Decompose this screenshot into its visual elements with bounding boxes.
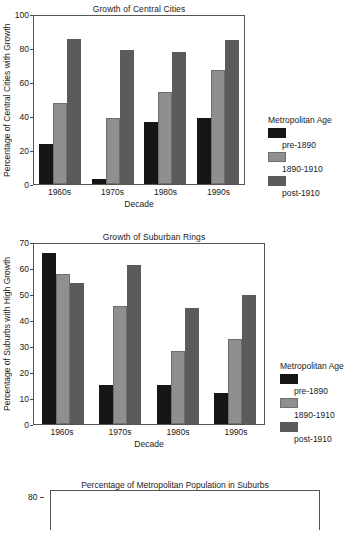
chart1-ytick-100: 100 <box>15 10 29 20</box>
chart2-bars <box>34 244 264 424</box>
bar-1970s-post-1910 <box>120 50 134 184</box>
chart1-title: Growth of Central Cities <box>0 0 364 15</box>
chart2-ytick-20: 20 <box>20 368 29 378</box>
xtick-1960s: 1960s <box>50 427 73 437</box>
bar-1970s-1890-1910 <box>113 306 127 424</box>
bar-1990s-pre-1890 <box>197 118 211 184</box>
xtick-1970s: 1970s <box>108 427 131 437</box>
xtick-1970s: 1970s <box>101 187 124 197</box>
bar-1970s-pre-1890 <box>99 385 113 424</box>
chart2-legend-label-1: 1890-1910 <box>294 410 335 420</box>
chart1-y-axis-label: Percentage of Central Cities with Growth <box>0 15 13 185</box>
chart2-ytick-40: 40 <box>20 316 29 326</box>
bar-group-1960s <box>42 244 84 424</box>
chart2-title: Growth of Suburban Rings <box>0 230 364 243</box>
bar-1960s-1890-1910 <box>56 274 70 424</box>
chart-central-cities: Growth of Central Cities Percentage of C… <box>0 0 364 230</box>
bar-1990s-post-1910 <box>242 295 256 424</box>
chart1-x-ticks: 1960s1970s1980s1990s <box>33 185 245 199</box>
legend-swatch-1890-1910-icon <box>280 398 298 408</box>
xtick-1980s: 1980s <box>154 187 177 197</box>
legend-swatch-post-1910-icon <box>268 176 286 186</box>
bar-1960s-pre-1890 <box>39 144 53 184</box>
chart1-ytick-80: 80 <box>20 44 29 54</box>
chart2-legend-label-0: pre-1890 <box>294 386 328 396</box>
bar-1990s-post-1910 <box>225 40 239 184</box>
bar-1990s-1890-1910 <box>211 70 225 184</box>
legend-swatch-pre-1890-icon <box>280 374 298 384</box>
bar-group-1970s <box>99 244 141 424</box>
figure-container: Growth of Central Cities Percentage of C… <box>0 0 364 530</box>
bar-1980s-1890-1910 <box>171 351 185 424</box>
chart2-legend: Metropolitan Age pre-1890 1890-1910 post… <box>280 361 344 446</box>
chart2-ytick-30: 30 <box>20 342 29 352</box>
bar-1970s-pre-1890 <box>92 179 106 184</box>
bar-group-1960s <box>39 16 81 184</box>
chart-metro-population-suburbs: Percentage of Metropolitan Population in… <box>0 480 364 530</box>
xtick-1980s: 1980s <box>166 427 189 437</box>
chart1-legend-item-post-1910: post-1910 <box>268 176 332 200</box>
bar-1990s-1890-1910 <box>228 339 242 424</box>
chart2-ytick-60: 60 <box>20 264 29 274</box>
xtick-1990s: 1990s <box>207 187 230 197</box>
bar-1980s-pre-1890 <box>144 122 158 184</box>
chart1-legend-label-2: post-1910 <box>282 188 320 198</box>
chart3-plot-area <box>50 490 320 530</box>
bar-1970s-post-1910 <box>127 265 141 424</box>
chart2-ytick-70: 70 <box>20 238 29 248</box>
bar-1960s-post-1910 <box>70 283 84 424</box>
chart2-legend-item-1890-1910: 1890-1910 <box>280 398 344 422</box>
chart2-y-ticks: 70 60 50 40 30 20 10 0 <box>13 243 33 425</box>
chart2-legend-item-pre-1890: pre-1890 <box>280 374 344 398</box>
bar-1980s-post-1910 <box>172 52 186 184</box>
chart1-legend-label-0: pre-1890 <box>282 140 316 150</box>
legend-swatch-post-1910-icon <box>280 422 298 432</box>
bar-1970s-1890-1910 <box>106 118 120 184</box>
chart1-x-axis-label: Decade <box>33 199 245 209</box>
chart3-ytick-80: 80 <box>28 492 37 502</box>
chart-suburban-rings: Growth of Suburban Rings Percentage of S… <box>0 230 364 470</box>
legend-swatch-pre-1890-icon <box>268 128 286 138</box>
bar-1960s-post-1910 <box>67 39 81 184</box>
chart1-y-ticks: 100 80 60 40 20 0 <box>13 15 33 185</box>
bar-1980s-1890-1910 <box>158 92 172 184</box>
bar-group-1970s <box>92 16 134 184</box>
bar-group-1980s <box>157 244 199 424</box>
bar-group-1990s <box>197 16 239 184</box>
chart2-x-ticks: 1960s1970s1980s1990s <box>33 425 265 439</box>
chart1-ytick-20: 20 <box>20 146 29 156</box>
chart1-legend-item-1890-1910: 1890-1910 <box>268 152 332 176</box>
chart1-ytick-60: 60 <box>20 78 29 88</box>
chart2-ytick-0: 0 <box>24 420 29 430</box>
chart1-legend-title: Metropolitan Age <box>268 115 332 125</box>
chart1-plot-area <box>33 15 245 185</box>
chart2-x-axis-label: Decade <box>33 439 265 449</box>
chart2-ytick-50: 50 <box>20 290 29 300</box>
bar-1960s-1890-1910 <box>53 103 67 184</box>
chart2-legend-title: Metropolitan Age <box>280 361 344 371</box>
chart3-title: Percentage of Metropolitan Population in… <box>0 480 364 490</box>
chart1-bars <box>34 16 244 184</box>
chart2-legend-label-2: post-1910 <box>294 434 332 444</box>
chart1-ytick-40: 40 <box>20 112 29 122</box>
bar-1980s-pre-1890 <box>157 385 171 424</box>
bar-group-1980s <box>144 16 186 184</box>
legend-swatch-1890-1910-icon <box>268 152 286 162</box>
chart1-legend: Metropolitan Age pre-1890 1890-1910 post… <box>268 115 332 200</box>
chart1-legend-item-pre-1890: pre-1890 <box>268 128 332 152</box>
bar-group-1990s <box>214 244 256 424</box>
bar-1990s-pre-1890 <box>214 393 228 424</box>
xtick-1960s: 1960s <box>48 187 71 197</box>
chart1-legend-label-1: 1890-1910 <box>282 164 323 174</box>
chart2-y-axis-label: Percentage of Suburbs with High Growth <box>0 243 13 425</box>
chart1-ytick-0: 0 <box>24 180 29 190</box>
xtick-1990s: 1990s <box>224 427 247 437</box>
bar-1960s-pre-1890 <box>42 253 56 424</box>
chart2-ytick-10: 10 <box>20 394 29 404</box>
chart2-plot-area <box>33 243 265 425</box>
chart2-legend-item-post-1910: post-1910 <box>280 422 344 446</box>
bar-1980s-post-1910 <box>185 308 199 424</box>
